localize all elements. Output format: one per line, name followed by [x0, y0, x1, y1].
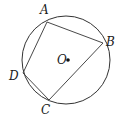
label-center-o: O: [57, 53, 67, 67]
label-point-b: B: [105, 35, 115, 49]
label-point-d: D: [8, 69, 19, 83]
label-point-c: C: [41, 103, 50, 117]
diagram-canvas: O A B C D: [0, 0, 122, 119]
label-point-a: A: [39, 3, 49, 17]
